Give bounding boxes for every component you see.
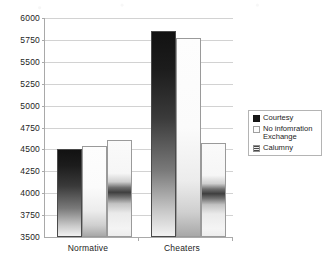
gridline: [45, 84, 233, 85]
legend-label: Courtesy: [263, 114, 293, 123]
legend-swatch-icon: [253, 126, 260, 133]
gridline: [45, 40, 233, 41]
x-axis-label-cheaters: Cheaters: [145, 243, 219, 253]
y-axis-tick-label: 6000: [10, 13, 40, 23]
bar-cheaters-noinfo: [176, 38, 201, 237]
y-axis-tick-label: 5250: [10, 79, 40, 89]
legend-label: Calumny: [263, 144, 293, 153]
x-axis-tick: [232, 238, 233, 241]
y-axis-tick-label: 4250: [10, 166, 40, 176]
gridline: [45, 106, 233, 107]
x-axis-label-normative: Normative: [51, 243, 125, 253]
y-axis-tick-label: 4000: [10, 188, 40, 198]
y-axis-tick-label: 5000: [10, 101, 40, 111]
x-axis-tick: [138, 238, 139, 241]
y-axis-tick-label: 4500: [10, 144, 40, 154]
y-axis-tick-label: 3750: [10, 210, 40, 220]
gridline: [45, 128, 233, 129]
legend-swatch-icon: [253, 145, 260, 152]
plot-area: [44, 18, 233, 238]
legend: Courtesy No infomration Exchange Calumny: [248, 110, 322, 156]
gridline: [45, 18, 233, 19]
gridline: [45, 62, 233, 63]
legend-item-no-information-exchange: No infomration Exchange: [253, 125, 318, 142]
y-axis-tick-label: 4750: [10, 123, 40, 133]
y-axis-tick-label: 3500: [10, 232, 40, 242]
legend-item-calumny: Calumny: [253, 144, 318, 153]
y-axis-tick-label: 5500: [10, 57, 40, 67]
bar-normative-noinfo: [82, 146, 107, 237]
legend-swatch-icon: [253, 115, 260, 122]
bar-cheaters-courtesy: [151, 31, 176, 237]
bar-normative-courtesy: [57, 149, 82, 237]
legend-item-courtesy: Courtesy: [253, 114, 318, 123]
y-axis-tick-label: 5750: [10, 35, 40, 45]
bar-cheaters-calumny: [201, 143, 226, 237]
bar-normative-calumny: [107, 140, 132, 237]
legend-label: No infomration Exchange: [263, 125, 312, 142]
bar-chart: 6000 5750 5500 5250 5000 4750 4500 4250 …: [0, 0, 330, 259]
